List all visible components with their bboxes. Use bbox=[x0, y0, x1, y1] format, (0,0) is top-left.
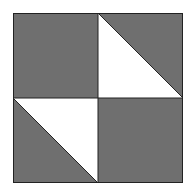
quilt-block-diagram bbox=[0, 0, 188, 195]
patch-top-left bbox=[13, 13, 98, 98]
patch-bottom-right bbox=[98, 98, 183, 183]
